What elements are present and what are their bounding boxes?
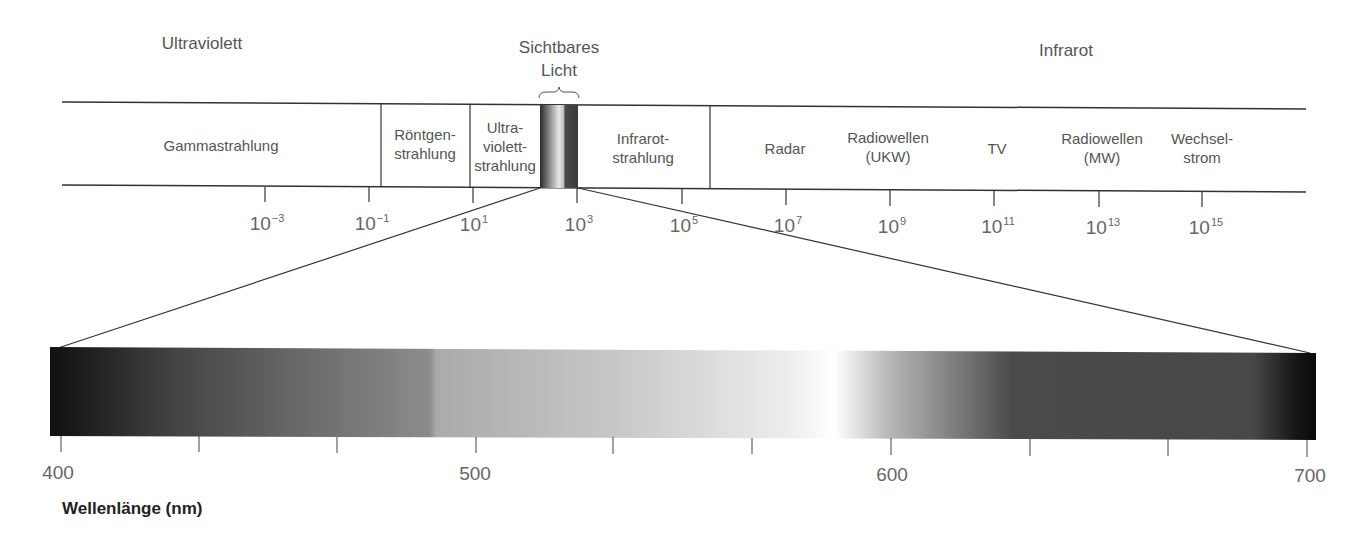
log-tick-label: 10−3 [250, 212, 285, 235]
band-ukw-label-1: Radiowellen [847, 128, 929, 147]
log-tick-label: 1011 [981, 215, 1015, 238]
band-mw: Radiowellen (MW) [1061, 129, 1143, 167]
band-ac-label-2: strom [1171, 148, 1233, 167]
band-radar-label: Radar [765, 139, 806, 158]
log-tick-label: 1015 [1189, 216, 1223, 239]
band-ir: Infrarot- strahlung [612, 129, 674, 167]
band-uv: Ultra- violett- strahlung [474, 118, 536, 175]
log-tick-label: 107 [774, 214, 802, 237]
nm-tick-label-500: 500 [459, 463, 491, 485]
band-ac-label-1: Wechsel- [1171, 129, 1233, 148]
band-uv-label-3: strahlung [474, 156, 536, 175]
log-tick-label: 101 [460, 213, 488, 236]
band-xray-label-1: Röntgen- [394, 125, 456, 144]
region-label-ultraviolet: Ultraviolett [162, 33, 242, 55]
band-uv-label-2: violett- [474, 137, 536, 156]
band-gamma: Gammastrahlung [163, 136, 278, 155]
band-ir-label-2: strahlung [612, 148, 674, 167]
region-label-visible-line2: Licht [541, 60, 577, 82]
nm-tick-label-700: 700 [1294, 465, 1326, 487]
nm-tick-label-400: 400 [42, 462, 74, 484]
band-ir-label-1: Infrarot- [612, 129, 674, 148]
band-tv-label: TV [987, 139, 1006, 158]
log-tick-label: 109 [878, 215, 906, 238]
band-gamma-label: Gammastrahlung [163, 136, 278, 155]
spectrum-diagram-graphics [0, 0, 1372, 533]
log-tick-label: 105 [670, 214, 698, 237]
band-mw-label-1: Radiowellen [1061, 129, 1143, 148]
band-ac: Wechsel- strom [1171, 129, 1233, 167]
band-mw-label-2: (MW) [1061, 148, 1143, 167]
band-ukw: Radiowellen (UKW) [847, 128, 929, 166]
band-tv: TV [987, 139, 1006, 158]
band-radar: Radar [765, 139, 806, 158]
log-tick-label: 10−1 [355, 212, 390, 235]
region-label-visible-line1: Sichtbares [519, 37, 599, 59]
band-ukw-label-2: (UKW) [847, 147, 929, 166]
log-tick-label: 103 [565, 213, 593, 236]
region-label-infrared: Infrarot [1039, 40, 1093, 62]
axis-title-wavelength: Wellenlänge (nm) [62, 499, 202, 519]
band-xray-label-2: strahlung [394, 144, 456, 163]
log-tick-label: 1013 [1086, 216, 1120, 239]
nm-tick-label-600: 600 [876, 464, 908, 486]
band-uv-label-1: Ultra- [474, 118, 536, 137]
band-xray: Röntgen- strahlung [394, 125, 456, 163]
